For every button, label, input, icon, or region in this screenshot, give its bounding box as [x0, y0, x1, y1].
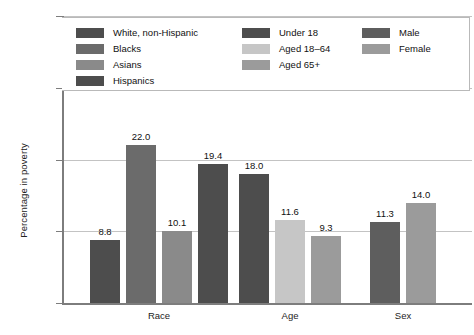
bar: [311, 236, 341, 303]
legend-swatch-icon: [76, 60, 104, 70]
legend-label: Hispanics: [113, 76, 154, 86]
legend-swatch-icon: [76, 44, 104, 54]
bar: [275, 220, 305, 303]
legend-label: Aged 65+: [279, 60, 320, 70]
bar-value-label: 11.6: [266, 206, 314, 217]
bar: [126, 145, 156, 303]
legend-label: White, non-Hispanic: [113, 28, 198, 38]
chart-legend: White, non-HispanicBlacksAsiansHispanics…: [62, 17, 470, 91]
bar: [239, 174, 269, 303]
legend-swatch-icon: [76, 76, 104, 86]
bar: [198, 164, 228, 303]
legend-swatch-icon: [242, 28, 270, 38]
legend-item[interactable]: Aged 18–64: [242, 41, 330, 57]
legend-label: Blacks: [113, 44, 141, 54]
bar-value-label: 22.0: [117, 131, 165, 142]
legend-item[interactable]: Male: [362, 25, 431, 41]
legend-column: White, non-HispanicBlacksAsiansHispanics: [76, 25, 198, 89]
bar: [90, 240, 120, 303]
bar-value-label: 11.3: [361, 208, 409, 219]
x-axis-category-label: Race: [109, 310, 209, 321]
legend-swatch-icon: [76, 28, 104, 38]
legend-item[interactable]: Aged 65+: [242, 57, 330, 73]
x-axis-line: [62, 303, 472, 305]
legend-label: Female: [399, 44, 431, 54]
legend-column: MaleFemale: [362, 25, 431, 57]
x-axis-category-label: Sex: [353, 310, 453, 321]
y-axis-title: Percentage in poverty: [18, 106, 29, 276]
legend-label: Male: [399, 28, 420, 38]
bar-value-label: 14.0: [397, 189, 445, 200]
legend-item[interactable]: Asians: [76, 57, 198, 73]
legend-swatch-icon: [362, 44, 390, 54]
x-axis-category-label: Age: [240, 310, 340, 321]
bar: [370, 222, 400, 303]
legend-swatch-icon: [242, 60, 270, 70]
bar-value-label: 9.3: [302, 222, 350, 233]
legend-item[interactable]: Hispanics: [76, 73, 198, 89]
legend-swatch-icon: [242, 44, 270, 54]
poverty-bar-chart: Percentage in poverty 010%20%30%40% 8.82…: [0, 0, 474, 335]
legend-label: Asians: [113, 60, 142, 70]
bar-value-label: 10.1: [153, 217, 201, 228]
legend-label: Aged 18–64: [279, 44, 330, 54]
legend-swatch-icon: [362, 28, 390, 38]
bar-value-label: 8.8: [81, 226, 129, 237]
bar: [162, 231, 192, 303]
legend-column: Under 18Aged 18–64Aged 65+: [242, 25, 330, 73]
bar: [406, 203, 436, 303]
legend-label: Under 18: [279, 28, 318, 38]
legend-item[interactable]: White, non-Hispanic: [76, 25, 198, 41]
bar-value-label: 18.0: [230, 160, 278, 171]
legend-item[interactable]: Female: [362, 41, 431, 57]
legend-item[interactable]: Under 18: [242, 25, 330, 41]
legend-item[interactable]: Blacks: [76, 41, 198, 57]
